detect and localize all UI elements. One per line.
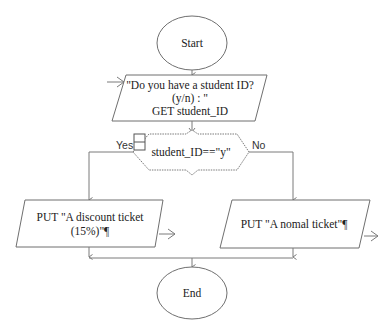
yes-output-node: PUT "A discount ticket (15%)"¶ [16,200,163,247]
start-label: Start [181,37,204,49]
input-entry-arrow-icon [107,77,124,87]
start-node: Start [157,16,227,70]
yes-output-line-2: (15%)"¶ [71,225,110,238]
yes-output-line-1: PUT "A discount ticket [36,211,144,223]
input-node: "Do you have a student ID? (y/n) : " GET… [112,75,267,121]
decision-label: student_ID=="y" [151,146,230,159]
decision-node: student_ID=="y" [133,130,249,175]
yes-label: Yes [116,139,133,151]
connector-yes-branch [89,152,133,200]
input-line-1: "Do you have a student ID? [126,79,254,92]
flowchart-canvas: Start "Do you have a student ID? (y/n) :… [0,0,389,332]
connector-no-branch [249,152,293,200]
no-output-node: PUT "A nomal ticket"¶ [220,200,370,248]
input-line-3: GET student_ID [152,105,228,117]
input-line-2: (y/n) : " [172,92,208,105]
yes-output-exit-arrow-icon [159,229,175,239]
no-output-exit-arrow-icon [364,231,378,241]
no-label: No [252,139,266,151]
no-output-line-1: PUT "A nomal ticket"¶ [241,218,348,230]
collapse-box-icon[interactable] [134,134,145,150]
end-node: End [157,267,227,319]
end-label: End [183,287,202,299]
